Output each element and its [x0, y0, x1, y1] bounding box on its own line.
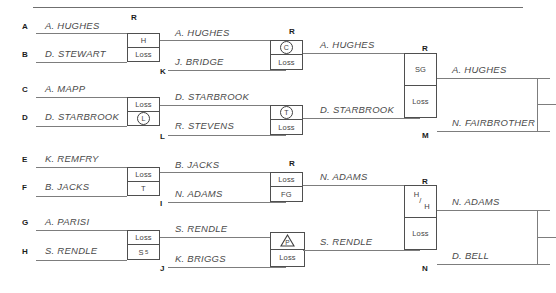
stacked-score-bottom: H: [424, 202, 430, 211]
player-rule: [303, 185, 420, 186]
result-box: Loss T: [127, 167, 160, 196]
result-letter: S: [138, 248, 143, 257]
seed-label-a: A: [22, 23, 28, 31]
seed-label-l: L: [160, 133, 165, 141]
result-box: C Loss: [270, 40, 303, 70]
player-name: D. STARBROOK: [320, 105, 394, 115]
stacked-score: H / H: [405, 186, 436, 217]
player-rule: [36, 126, 127, 127]
result-cell-top: Loss: [128, 98, 159, 112]
player-name: S. RENDLE: [175, 224, 227, 234]
result-cell-bottom: Loss: [405, 218, 436, 250]
seed-label-h: H: [22, 248, 28, 256]
player-name: S. RENDLE: [320, 237, 372, 247]
result-cell-top: Loss: [128, 168, 159, 182]
result-cell-top: H: [128, 34, 159, 48]
player-rule: [36, 260, 127, 261]
triangle-letter-icon: P: [280, 234, 295, 247]
round-header-3: R: [289, 160, 295, 168]
seed-label-g: G: [22, 219, 28, 227]
seed-label-e: E: [22, 156, 28, 164]
player-name: N. FAIRBROTHER: [452, 118, 535, 128]
player-rule: [36, 97, 127, 98]
bracket-connector-stub: [537, 237, 556, 238]
result-box: Loss L: [127, 97, 160, 126]
player-name: N. ADAMS: [175, 189, 223, 199]
player-name: A. HUGHES: [320, 40, 375, 50]
result-cell-bottom: Loss: [271, 250, 304, 267]
player-rule: [437, 264, 550, 265]
top-divider-rule: [33, 7, 523, 8]
result-cell-bottom: T: [128, 182, 159, 196]
player-name: A. HUGHES: [175, 28, 230, 38]
result-cell-bottom: Loss: [271, 55, 302, 69]
player-rule: [437, 210, 550, 211]
player-name: A. HUGHES: [45, 21, 100, 31]
seed-label-d: D: [22, 114, 28, 122]
result-box: P Loss: [270, 232, 305, 267]
result-cell-bottom: FG: [271, 187, 302, 201]
result-box: Loss S5: [127, 230, 160, 260]
result-cell-top: Loss: [128, 231, 159, 245]
bracket-connector-stub: [537, 104, 556, 105]
seed-label-c: C: [22, 86, 28, 94]
result-cell-bottom: Loss: [271, 120, 302, 134]
seed-label-m: M: [422, 132, 429, 140]
stacked-score-slash: /: [419, 196, 421, 205]
player-name: N. ADAMS: [452, 197, 500, 207]
seed-label-i: I: [160, 200, 162, 208]
triangle-letter: P: [285, 239, 290, 246]
player-rule: [36, 196, 127, 197]
seed-label-k: K: [160, 68, 166, 76]
result-cell-top: T: [271, 106, 302, 120]
player-rule: [36, 230, 127, 231]
result-box: SG Loss: [404, 53, 437, 118]
seed-label-n: N: [422, 265, 428, 273]
result-cell-top: H / H: [405, 186, 436, 218]
circled-letter-icon: L: [137, 112, 150, 125]
result-cell-top: Loss: [271, 173, 302, 187]
player-rule: [168, 70, 286, 71]
player-name: A. MAPP: [45, 84, 85, 94]
player-name: N. ADAMS: [320, 172, 368, 182]
result-cell-bottom: Loss: [128, 48, 159, 62]
result-box: H / H Loss: [404, 185, 437, 250]
player-name: S. RENDLE: [45, 246, 97, 256]
player-rule: [303, 250, 420, 251]
player-rule: [160, 105, 286, 106]
player-rule: [36, 62, 127, 63]
player-name: D. STARBROOK: [45, 112, 119, 122]
player-name: J. BRIDGE: [175, 57, 224, 67]
seed-label-b: B: [22, 51, 28, 59]
round-header-1: R: [131, 14, 137, 22]
result-cell-top: P: [271, 233, 304, 250]
circled-letter-icon: T: [280, 106, 293, 119]
result-subscript: 5: [145, 249, 149, 255]
result-cell-bottom: Loss: [405, 86, 436, 118]
result-cell-bottom: L: [128, 112, 159, 126]
player-rule: [303, 118, 420, 119]
result-cell-bottom: S5: [128, 245, 159, 259]
result-cell-top: SG: [405, 54, 436, 86]
player-name: B. JACKS: [175, 160, 219, 170]
player-name: A. HUGHES: [452, 65, 507, 75]
player-name: D. STEWART: [45, 49, 106, 59]
player-rule: [160, 172, 286, 173]
tournament-bracket: A B C D E F G H I J K L M N R R R R R A.…: [0, 0, 556, 293]
player-rule: [160, 237, 286, 238]
seed-label-f: F: [22, 184, 27, 192]
round-header-2: R: [289, 28, 295, 36]
player-rule: [303, 53, 420, 54]
player-name: D. BELL: [452, 251, 489, 261]
player-name: K. REMFRY: [45, 154, 99, 164]
seed-label-j: J: [160, 265, 165, 273]
round-header-4: R: [422, 45, 428, 53]
player-name: B. JACKS: [45, 182, 89, 192]
player-rule: [160, 40, 286, 41]
result-cell-top: C: [271, 41, 302, 55]
player-name: K. BRIGGS: [175, 254, 226, 264]
player-rule: [168, 202, 286, 203]
player-rule: [437, 131, 550, 132]
result-box: H Loss: [127, 33, 160, 62]
player-name: D. STARBROOK: [175, 92, 249, 102]
